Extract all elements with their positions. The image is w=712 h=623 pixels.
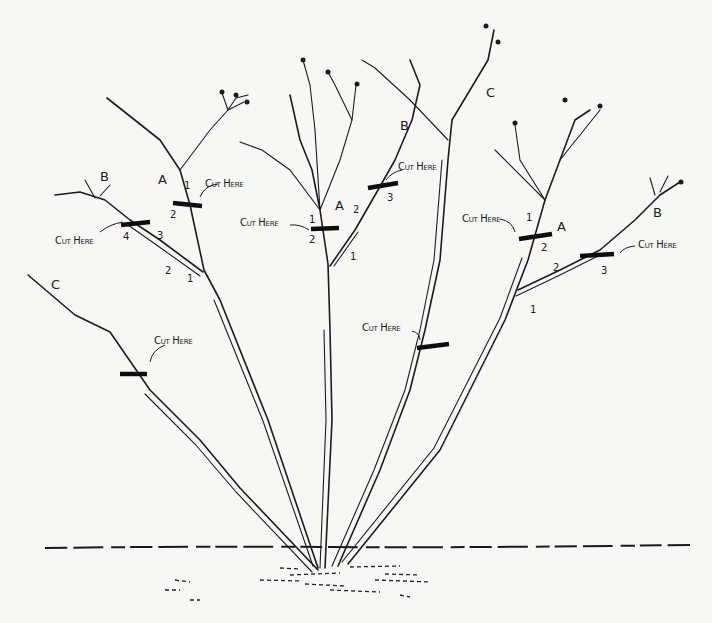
pruning-diagram: A B C A B C A B Cut Here Cut Here Cut He… [0,0,712,623]
label-center-b: B [400,119,409,132]
bud-number: 1 [350,252,356,262]
cut-here-label-right-a: Cut Here [462,214,500,224]
cut-here-label-left-c: Cut Here [154,336,192,346]
soil-marks [165,566,430,600]
label-right-a: A [557,220,566,233]
cut-mark-center-b [368,183,398,188]
cut-mark-right-b [580,254,614,256]
cane-left-b [55,180,203,276]
label-left-a: A [158,173,167,186]
cut-here-label-left-a: Cut Here [205,179,243,189]
cut-here-label-center-c: Cut Here [362,323,400,333]
bud-number: 2 [165,266,171,276]
bud-number: 1 [184,181,190,191]
bud-number: 2 [170,210,176,220]
label-right-b: B [653,206,662,219]
label-center-c: C [486,86,495,99]
cut-here-label-left-b: Cut Here [55,236,93,246]
bud-number: 3 [387,193,393,203]
bud-number: 2 [541,243,547,253]
cut-mark-center-a [311,228,339,229]
cane-left-a [107,90,318,569]
rose-bush-drawing [0,0,712,623]
bud-number: 1 [530,305,536,315]
cut-here-label-center-a: Cut Here [240,218,278,228]
cane-center-a [240,58,360,569]
bud-number: 2 [553,263,559,273]
cane-left-c [28,275,318,572]
cut-mark-left-a [173,203,202,206]
bud-number: 4 [123,232,129,242]
bud-number: 1 [187,274,193,284]
bud-number: 1 [309,215,315,225]
cut-mark-left-b [121,222,150,225]
bud-number: 1 [526,213,532,223]
cut-here-label-right-b: Cut Here [638,240,676,250]
label-left-b: B [100,170,109,183]
label-center-a: A [335,199,344,212]
bud-number: 2 [353,205,359,215]
ground-line [45,545,690,548]
cut-marks [120,183,614,374]
bud-number: 2 [309,235,315,245]
cut-mark-right-a [519,234,552,239]
cut-here-label-center-b: Cut Here [398,162,436,172]
bud-number: 3 [157,231,163,241]
label-left-c: C [51,278,60,291]
bud-number: 3 [601,266,607,276]
